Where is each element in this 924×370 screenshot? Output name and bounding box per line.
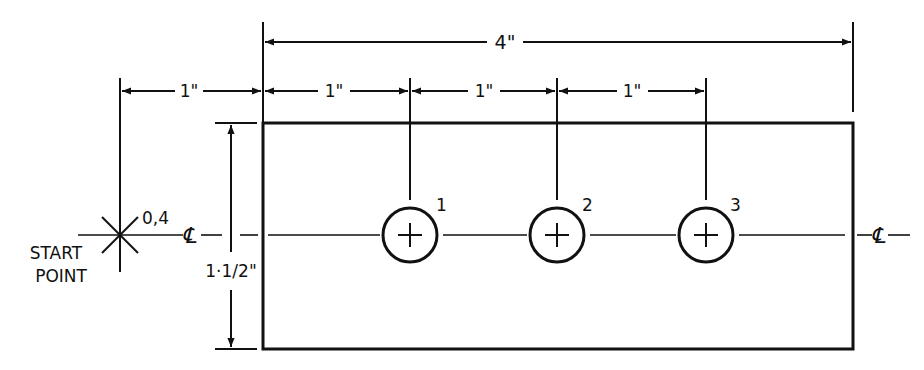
hole-spacing-label-3: 1" [623,81,642,101]
centerline-symbol-right: ℄ [871,223,886,248]
start-point-coordinates: 0,4 [142,208,169,228]
start-point-label-line1: START [30,243,83,263]
overall-width-label: 4" [495,31,516,53]
hole-2-number: 2 [582,195,593,215]
hole-2 [530,208,584,262]
start-offset-label: 1" [180,81,199,101]
part-drawing: 4" 1" 1" 1" 1" 1·1/2" ℄ ℄ 0,4 [0,0,924,370]
hole-spacing-label-1: 1" [325,81,344,101]
hole-1 [383,208,437,262]
extension-lines [120,22,853,349]
hole-spacing-label-2: 1" [475,81,494,101]
start-point-label-line2: POINT [35,266,87,286]
hole-1-number: 1 [436,195,447,215]
hole-3 [679,208,733,262]
height-label: 1·1/2" [205,261,256,281]
centerline-symbol-left: ℄ [182,223,197,248]
hole-3-number: 3 [730,195,741,215]
